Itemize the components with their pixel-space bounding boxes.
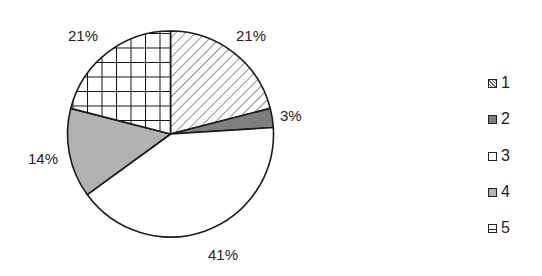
diagonal-hatch-swatch-icon (488, 79, 497, 88)
dark-gray-swatch-icon (488, 115, 497, 124)
legend-item-3: 3 (488, 147, 510, 165)
slice-label-1: 21% (236, 27, 266, 44)
light-gray-swatch-icon (488, 188, 497, 197)
slice-label-2: 3% (280, 107, 302, 124)
slice-label-5: 21% (68, 27, 98, 44)
grid-hatch-swatch-icon (488, 224, 497, 233)
white-swatch-icon (488, 152, 497, 161)
legend-item-1: 1 (488, 74, 510, 92)
legend-item-4: 4 (488, 183, 510, 201)
slice-label-3: 41% (208, 246, 238, 263)
legend-item-2: 2 (488, 110, 510, 128)
legend-item-5: 5 (488, 219, 510, 237)
slice-label-4: 14% (28, 150, 58, 167)
